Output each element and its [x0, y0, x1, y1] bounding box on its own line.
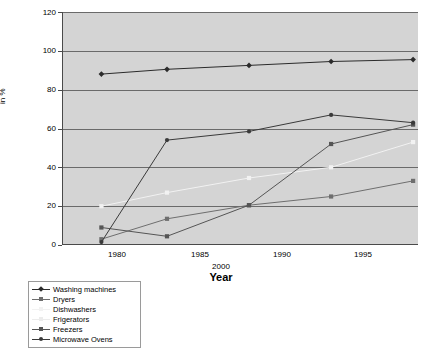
- y-tick-mark: [58, 245, 62, 246]
- legend-item-label: Dryers: [53, 295, 75, 304]
- legend-marker-icon: [32, 335, 50, 344]
- legend-marker-icon: [32, 315, 50, 324]
- y-tick-label: 120: [30, 8, 56, 17]
- legend-marker-icon: [32, 295, 50, 304]
- x-tick-label-stray: 2000: [212, 262, 230, 271]
- gridline: [63, 129, 418, 130]
- legend-item-label: Dishwashers: [53, 305, 96, 314]
- y-tick-mark: [58, 90, 62, 91]
- gridline: [63, 206, 418, 207]
- y-tick-mark: [58, 167, 62, 168]
- legend-item-label: Freezers: [53, 325, 83, 334]
- x-tick-label: 1990: [273, 250, 291, 259]
- legend-item-label: Frigerators: [53, 315, 89, 324]
- x-tick-label: 1985: [191, 250, 209, 259]
- y-tick-label: 20: [30, 201, 56, 210]
- legend-item-microwave-ovens[interactable]: Microwave Ovens: [32, 334, 137, 344]
- y-axis-title: in %: [0, 88, 7, 104]
- x-tick-label: 1995: [354, 250, 372, 259]
- y-tick-mark: [58, 206, 62, 207]
- legend-item-frigerators[interactable]: Frigerators: [32, 314, 137, 324]
- y-tick-mark: [58, 12, 62, 13]
- x-tick-label: 1980: [108, 250, 126, 259]
- gridline: [63, 12, 418, 13]
- y-tick-label: 40: [30, 163, 56, 172]
- line-chart: 120 100 80 60 40 20 0 in % 1980 1985 199…: [0, 0, 442, 351]
- plot-area: [62, 12, 418, 245]
- legend: Washing machines Dryers Dishwashers Frig…: [28, 281, 141, 348]
- legend-marker-icon: [32, 305, 50, 314]
- legend-item-dishwashers[interactable]: Dishwashers: [32, 304, 137, 314]
- y-tick-label: 80: [30, 85, 56, 94]
- legend-item-freezers[interactable]: Freezers: [32, 324, 137, 334]
- y-tick-mark: [58, 51, 62, 52]
- legend-item-label: Washing machines: [53, 285, 116, 294]
- legend-item-washing-machines[interactable]: Washing machines: [32, 284, 137, 294]
- y-tick-label: 0: [30, 240, 56, 249]
- legend-item-label: Microwave Ovens: [53, 335, 113, 344]
- gridline: [63, 51, 418, 52]
- legend-item-dryers[interactable]: Dryers: [32, 294, 137, 304]
- x-axis-title: Year: [209, 271, 232, 283]
- y-tick-mark: [58, 129, 62, 130]
- y-tick-label: 100: [30, 46, 56, 55]
- y-tick-label: 60: [30, 124, 56, 133]
- gridline: [63, 167, 418, 168]
- legend-marker-icon: [32, 285, 50, 294]
- gridline: [63, 90, 418, 91]
- legend-marker-icon: [32, 325, 50, 334]
